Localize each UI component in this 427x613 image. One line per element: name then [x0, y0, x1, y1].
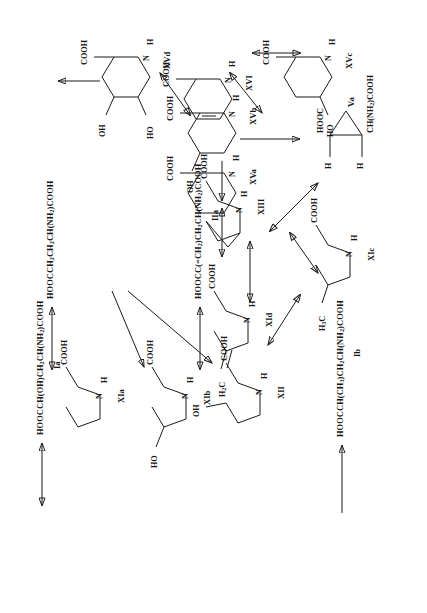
atom-xvi-nh: H	[228, 61, 237, 67]
atom-va-chnh2cooh: CH(NH2)COOH	[366, 75, 375, 133]
atom-xvc-cooh: COOH	[262, 40, 271, 65]
structure-xvd-ring	[94, 57, 150, 115]
structure-xva-ring	[180, 173, 236, 213]
atom-xib-cooh: COOH	[146, 340, 155, 365]
atom-xvc-nh: H	[328, 39, 337, 45]
atom-xiii-nh: H	[240, 191, 249, 197]
structure-xii-ring	[206, 363, 260, 423]
atom-xid-cooh: COOH	[208, 264, 217, 289]
atom-xvd-cooh: COOH	[80, 40, 89, 65]
label-xvc: XVc	[344, 53, 354, 69]
atom-xiii-cooh: COOH	[200, 154, 209, 179]
arrow-xia-to-xib	[112, 291, 144, 367]
atom-xib-n: N	[181, 393, 190, 399]
atom-xii-oh: OH	[192, 404, 201, 417]
atom-xva-nh: H	[232, 155, 241, 161]
label-ib: Ib	[352, 349, 362, 357]
formula-xia: HOOCCH2CH2CH(NH2)COOH	[46, 181, 55, 299]
atom-xia-nh: H	[100, 377, 109, 383]
formula-ia: HOOCCH(OH)CH2CH(NH2)COOH	[36, 301, 45, 435]
label-xvb: XVb	[248, 108, 258, 125]
atom-xic-h3c: H3C	[318, 316, 327, 331]
atom-xid-n: N	[243, 317, 252, 323]
atom-xic-n: N	[345, 251, 354, 257]
atom-xva-n: N	[228, 171, 237, 177]
label-xid: XId	[264, 313, 274, 327]
label-xiii: XIII	[256, 199, 266, 215]
atom-xvb-oh: OH	[186, 180, 195, 193]
atom-xic-nh: H	[350, 235, 359, 241]
atom-xvd-ho: HO	[146, 126, 155, 139]
label-xvi: XVI	[244, 75, 254, 91]
atom-xvd-oh: OH	[98, 124, 107, 137]
atom-xic-cooh: COOH	[310, 198, 319, 223]
structure-xvc-ring	[276, 57, 332, 115]
diagram-canvas: HOOCCH(OH)CH2CH(NH2)COOH Ia HOOCCH2CH2CH…	[0, 0, 427, 613]
formula-ib: HOOCCH(CH3)CH2CH(NH2)COOH	[336, 300, 345, 437]
label-xib: XIb	[202, 391, 212, 405]
atom-xii-nh: H	[260, 373, 269, 379]
atom-xvi-n: N	[224, 77, 233, 83]
structure-xib-ring	[152, 367, 186, 447]
atom-xii-cooh: COOH	[220, 336, 229, 361]
atom-xvb-n: N	[228, 111, 237, 117]
atom-xvc-n: N	[324, 55, 333, 61]
atom-xva-cooh: COOH	[166, 156, 175, 181]
atom-va-h-top: H	[324, 163, 333, 169]
atom-xvd-nh: H	[146, 39, 155, 45]
atom-xvb-cooh: COOH	[166, 96, 175, 121]
atom-xib-nh: H	[186, 377, 195, 383]
label-va: Va	[346, 97, 356, 107]
structure-xic-ring	[316, 225, 350, 303]
arrow-xia-to-xii	[128, 291, 212, 363]
atom-xib-ho: HO	[150, 455, 159, 468]
label-xva: XVa	[248, 169, 258, 185]
atom-xvd-n: N	[142, 55, 151, 61]
label-xii: XII	[276, 386, 286, 399]
arrow-xiii-to-xic	[290, 233, 318, 273]
atom-xvb-nh: H	[232, 95, 241, 101]
atom-xid-h2c: H2C	[218, 382, 227, 397]
atom-xia-cooh: COOH	[60, 340, 69, 365]
atom-xid-nh: H	[248, 301, 257, 307]
label-iia: IIa	[210, 210, 220, 221]
atom-va-hooc: HOOC	[316, 108, 325, 133]
formula-iia: HOOCC(=CH2)CH2CH(NH2)COOH	[194, 164, 203, 299]
label-xic: XIc	[366, 248, 376, 261]
atom-va-h-bottom: H	[356, 163, 365, 169]
atom-xvi-cooh: COOH	[162, 62, 171, 87]
atom-xia-n: N	[95, 393, 104, 399]
atom-xii-n: N	[255, 389, 264, 395]
atom-xvc-ho: HO	[326, 124, 335, 137]
atom-xiii-n: N	[235, 207, 244, 213]
label-xia: XIa	[116, 389, 126, 403]
rotated-scheme-layer: HOOCCH(OH)CH2CH(NH2)COOH Ia HOOCCH2CH2CH…	[0, 0, 427, 613]
scheme-bonds-and-arrows	[0, 0, 427, 613]
